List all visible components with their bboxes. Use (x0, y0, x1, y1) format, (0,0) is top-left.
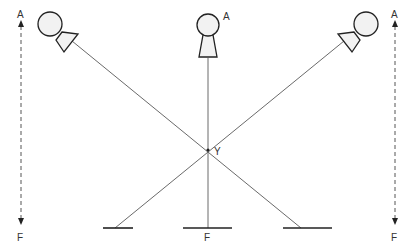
left-axis-label-f: F (17, 232, 23, 243)
right-viewer (338, 12, 378, 52)
center-label-a: A (223, 11, 230, 22)
right-viewer-head-icon (354, 12, 378, 36)
left-viewer-head-icon (38, 12, 62, 36)
right-viewer-sight-line (115, 41, 344, 228)
intersection-label-y: Y (214, 146, 221, 157)
left-viewer (38, 12, 78, 52)
right-viewer-eye-icon (338, 32, 360, 52)
right-axis-up-arrowhead-icon (392, 20, 398, 27)
diagram-canvas: A F A F F Y A (0, 0, 412, 250)
left-axis-down-arrowhead-icon (18, 218, 24, 225)
center-viewer: A (197, 11, 230, 57)
center-label-f: F (204, 232, 210, 243)
right-axis-down-arrowhead-icon (392, 218, 398, 225)
intersection-point (206, 148, 209, 151)
center-viewer-eye-icon (199, 35, 217, 57)
right-axis-label-a: A (391, 9, 398, 20)
left-viewer-eye-icon (56, 32, 78, 52)
right-axis-label-f: F (391, 232, 397, 243)
left-axis-up-arrowhead-icon (18, 20, 24, 27)
center-viewer-head-icon (197, 14, 219, 36)
right-axis: A F (391, 9, 398, 243)
left-viewer-sight-line (72, 41, 301, 228)
left-axis-label-a: A (17, 9, 24, 20)
left-axis: A F (17, 9, 24, 243)
